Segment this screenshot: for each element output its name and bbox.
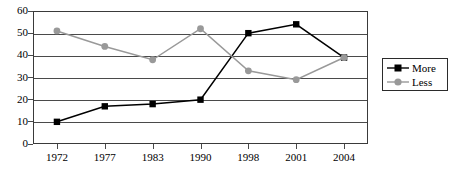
- data-point-more-1990: [197, 96, 203, 102]
- x-tick-label: 1972: [46, 152, 68, 163]
- x-tick-label: 2004: [333, 152, 355, 163]
- x-tick-label: 1977: [94, 152, 116, 163]
- x-tick-mark: [344, 144, 345, 149]
- data-point-more-1972: [54, 119, 60, 125]
- legend-item-more[interactable]: More: [386, 61, 444, 75]
- data-point-more-1998: [245, 30, 251, 36]
- y-tick-label: 60: [17, 5, 28, 16]
- data-point-less-2001: [293, 76, 300, 83]
- data-point-more-1983: [149, 101, 155, 107]
- legend-item-less[interactable]: Less: [386, 75, 444, 89]
- legend-label-more: More: [410, 63, 436, 74]
- y-tick-mark: [28, 99, 33, 100]
- data-point-more-1977: [102, 103, 108, 109]
- x-tick-mark: [296, 144, 297, 149]
- x-tick-mark: [248, 144, 249, 149]
- legend-swatch-less-icon: [386, 76, 410, 88]
- x-tick-mark: [201, 144, 202, 149]
- y-axis-tick-labels: 0102030405060: [0, 0, 28, 177]
- data-point-less-1998: [245, 67, 252, 74]
- y-tick-mark: [28, 33, 33, 34]
- data-point-less-1990: [197, 25, 204, 32]
- series-line-less: [57, 29, 344, 80]
- series-line-more: [57, 24, 344, 122]
- y-tick-label: 40: [17, 49, 28, 60]
- data-point-less-1972: [54, 28, 61, 35]
- data-point-less-1977: [101, 43, 108, 50]
- chart-legend: More Less: [382, 58, 448, 91]
- data-point-more-2001: [293, 21, 299, 27]
- x-tick-mark: [153, 144, 154, 149]
- y-tick-mark: [28, 77, 33, 78]
- y-tick-label: 30: [17, 72, 28, 83]
- series-layer: [33, 11, 368, 144]
- line-chart-figure: 0102030405060 More Less 1972197719831990…: [0, 0, 457, 177]
- x-tick-label: 1983: [142, 152, 164, 163]
- legend-swatch-more-icon: [386, 62, 410, 74]
- x-tick-mark: [57, 144, 58, 149]
- x-tick-mark: [105, 144, 106, 149]
- y-tick-mark: [28, 55, 33, 56]
- x-tick-label: 2001: [285, 152, 307, 163]
- y-tick-mark: [28, 121, 33, 122]
- y-tick-mark: [28, 144, 33, 145]
- data-point-less-2004: [341, 54, 348, 61]
- x-tick-label: 1998: [237, 152, 259, 163]
- y-tick-label: 10: [17, 116, 28, 127]
- x-tick-label: 1990: [190, 152, 212, 163]
- y-tick-label: 20: [17, 94, 28, 105]
- data-point-less-1983: [149, 56, 156, 63]
- legend-label-less: Less: [410, 77, 432, 88]
- y-tick-mark: [28, 11, 33, 12]
- y-tick-label: 50: [17, 27, 28, 38]
